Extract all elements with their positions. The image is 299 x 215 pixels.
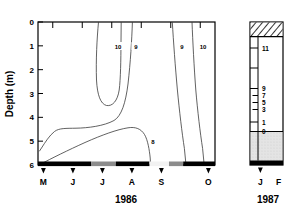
status-seg-4: [150, 162, 170, 167]
legend-sample-marker: [258, 168, 263, 173]
month-label-j2: J: [100, 177, 105, 187]
contour-figure: 0 1 2 3 4 5 6 Depth (m) 10: [0, 0, 299, 215]
figure-container: 0 1 2 3 4 5 6 Depth (m) 10: [0, 0, 299, 215]
sample-marker-3: [100, 168, 105, 173]
y-tick-0: 0: [30, 18, 35, 27]
sediment-shading: [251, 132, 283, 165]
status-seg-2: [91, 162, 116, 167]
status-seg-1: [38, 162, 91, 167]
y-tick-6: 6: [30, 161, 35, 170]
contour-label-10-spring: 10: [115, 44, 122, 50]
month-label-j1: J: [71, 177, 76, 187]
main-year-label: 1986: [115, 194, 138, 205]
legend-label-5: 5: [262, 99, 266, 106]
legend-month-label-j: J: [258, 177, 263, 187]
legend-panel: 11 9 7 5 3 1 0 J F 1987: [250, 22, 283, 205]
y-axis-title: Depth (m): [4, 71, 15, 118]
legend-label-9: 9: [262, 85, 266, 92]
bottom-status-bar: [38, 162, 215, 167]
month-label-m: M: [40, 177, 47, 187]
sample-marker-2: [71, 168, 76, 173]
status-seg-6: [183, 162, 215, 167]
y-tick-4: 4: [30, 113, 35, 122]
legend-label-0: 0: [262, 128, 266, 135]
legend-label-1: 1: [262, 119, 266, 126]
month-label-s: S: [159, 177, 165, 187]
legend-year-label: 1987: [257, 194, 280, 205]
y-tick-2: 2: [30, 66, 35, 75]
sampling-markers: [41, 168, 211, 173]
month-label-a: A: [129, 177, 135, 187]
contour-label-10-autumn: 10: [200, 44, 207, 50]
legend-bottom-bar: [250, 161, 283, 166]
legend-label-3: 3: [262, 106, 266, 113]
month-labels: M J J A S O: [40, 177, 212, 187]
y-tick-1: 1: [30, 42, 35, 51]
legend-label-11: 11: [262, 45, 269, 52]
sample-marker-6: [206, 168, 211, 173]
legend-label-7: 7: [262, 92, 266, 99]
y-tick-labels: 0 1 2 3 4 5 6: [30, 18, 35, 170]
sample-marker-4: [130, 168, 135, 173]
sample-marker-5: [159, 168, 164, 173]
sample-marker-1: [41, 168, 46, 173]
ice-cover-hatching: [251, 23, 283, 37]
main-plot-panel: 0 1 2 3 4 5 6 Depth (m) 10: [4, 18, 215, 205]
y-tick-3: 3: [30, 90, 35, 99]
status-seg-5: [169, 162, 183, 167]
month-label-o: O: [205, 177, 212, 187]
status-seg-3: [116, 162, 150, 167]
y-tick-5: 5: [30, 137, 35, 146]
legend-month-label-f: F: [276, 177, 281, 187]
